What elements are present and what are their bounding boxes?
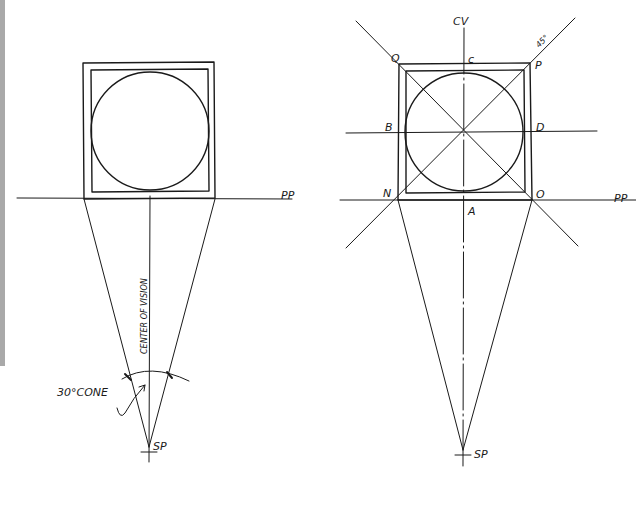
left-outer-square	[83, 62, 215, 199]
right-corner-o-label: O	[536, 188, 545, 201]
right-cone-line-left	[398, 200, 463, 450]
left-picture-plane-line	[17, 198, 292, 199]
perspective-diagram: PP CENTER OF VISION 30°CONE SP CV 45° Q …	[0, 0, 636, 511]
left-center-of-vision-line	[149, 196, 150, 462]
right-center-of-vision-line	[463, 28, 464, 466]
right-panel: CV 45° Q P N O c B D A PP SP	[340, 15, 636, 466]
left-sp-label: SP	[153, 440, 167, 453]
right-tangent-a-label: A	[467, 205, 476, 218]
right-corner-n-label: N	[383, 187, 391, 200]
right-corner-p-label: P	[535, 59, 542, 72]
left-circle	[91, 72, 209, 190]
left-center-of-vision-label: CENTER OF VISION	[140, 278, 149, 354]
right-sp-label: SP	[474, 448, 488, 461]
right-corner-q-label: Q	[391, 52, 400, 65]
left-cone-arc	[122, 371, 189, 381]
right-tangent-b-label: B	[385, 121, 393, 134]
left-pp-label: PP	[281, 189, 295, 202]
right-tangent-d-label: D	[536, 121, 544, 134]
right-pp-label: PP	[614, 192, 628, 205]
right-angle-label: 45°	[534, 33, 550, 49]
left-cone-line-right	[149, 199, 215, 447]
left-cone-leader-arrow	[117, 385, 145, 416]
right-cv-label: CV	[453, 15, 470, 28]
right-tangent-c-label: c	[468, 53, 474, 66]
right-horizontal-bd-line	[346, 131, 597, 133]
left-cone-label: 30°CONE	[57, 386, 108, 399]
left-panel: PP CENTER OF VISION 30°CONE SP	[17, 62, 295, 462]
right-cone-line-right	[463, 200, 532, 450]
